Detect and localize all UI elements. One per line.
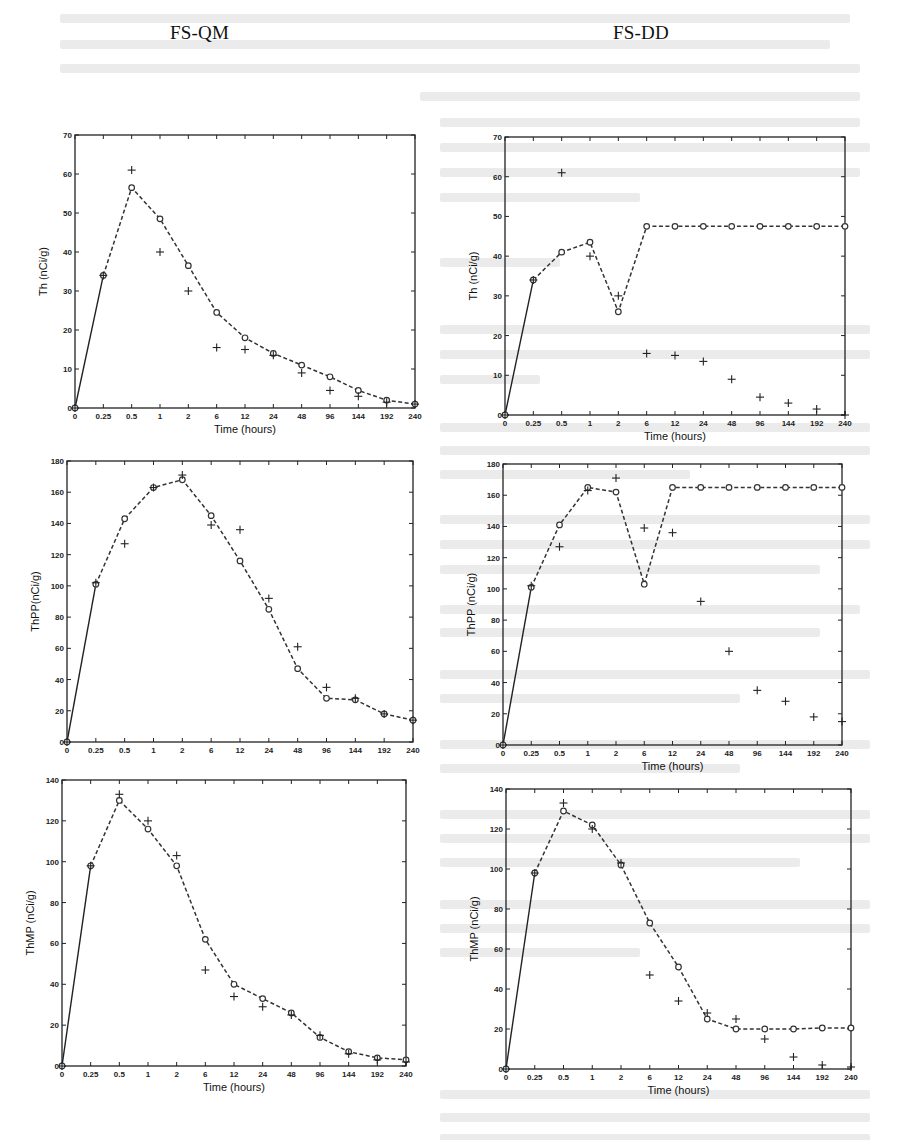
model-point-circle <box>122 516 128 522</box>
y-tick-label: 100 <box>490 865 504 874</box>
model-line <box>96 480 413 720</box>
x-tick-label: 144 <box>782 419 796 428</box>
y-tick-label: 100 <box>51 582 65 591</box>
observed-point-plus-icon <box>782 697 790 705</box>
observed-point-plus-icon <box>173 852 181 860</box>
y-tick-label: 30 <box>63 287 72 296</box>
y-tick-label: 20 <box>494 1025 503 1034</box>
x-tick-label: 2 <box>616 419 621 428</box>
model-point-circle <box>733 1026 739 1032</box>
x-tick-label: 192 <box>371 1070 385 1079</box>
x-tick-label: 0 <box>65 746 70 755</box>
model-point-circle <box>729 224 735 230</box>
observed-point-plus-icon <box>669 529 677 537</box>
observed-point-plus-icon <box>675 997 683 1005</box>
observed-point-plus-icon <box>411 400 419 408</box>
x-tick-label: 6 <box>203 1070 208 1079</box>
x-tick-label: 144 <box>779 749 793 758</box>
model-point-circle <box>814 224 820 230</box>
x-axis-label: Time (hours) <box>648 1084 710 1096</box>
observed-point-plus-icon <box>87 862 95 870</box>
y-tick-label: 80 <box>50 899 59 908</box>
x-tick-label: 0 <box>60 1070 65 1079</box>
observed-point-plus-icon <box>671 351 679 359</box>
x-tick-label: 0.25 <box>83 1070 99 1079</box>
chart-thpp-fs-dd: 02040608010012014016018000.250.512612244… <box>458 456 852 789</box>
observed-point-plus-icon <box>259 1003 267 1011</box>
x-tick-label: 144 <box>787 1073 801 1082</box>
model-point-circle <box>237 558 243 564</box>
y-tick-label: 160 <box>51 488 65 497</box>
observed-point-plus-icon <box>841 411 849 419</box>
x-tick-label: 12 <box>671 419 680 428</box>
observed-point-plus-icon <box>128 166 136 174</box>
x-tick-label: 12 <box>241 412 250 421</box>
x-tick-label: 96 <box>316 1070 325 1079</box>
y-tick-label: 120 <box>51 551 65 560</box>
x-tick-label: 192 <box>810 419 824 428</box>
observed-point-plus-icon <box>725 647 733 655</box>
observed-point-plus-icon <box>697 597 705 605</box>
model-point-circle <box>231 981 237 987</box>
observed-point-plus-icon <box>818 1061 826 1069</box>
y-tick-label: 10 <box>493 371 502 380</box>
y-tick-label: 50 <box>63 209 72 218</box>
x-tick-label: 2 <box>614 749 619 758</box>
x-tick-label: 24 <box>696 749 705 758</box>
x-tick-label: 0.5 <box>126 412 138 421</box>
y-tick-label: 20 <box>491 710 500 719</box>
y-tick-label: 140 <box>487 522 501 531</box>
chart-th-fs-dd: 01020304050607000.250.512612244896144192… <box>460 129 855 459</box>
model-point-circle <box>783 485 789 491</box>
y-tick-label: 120 <box>487 554 501 563</box>
x-tick-label: 192 <box>380 412 394 421</box>
x-tick-label: 144 <box>352 412 366 421</box>
observed-point-plus-icon <box>236 526 244 534</box>
plot-frame <box>503 464 842 745</box>
x-tick-label: 2 <box>180 746 185 755</box>
observed-point-plus-icon <box>761 1035 769 1043</box>
chart-th-fs-qm: 01020304050607000.250.512612244896144192… <box>30 127 425 452</box>
y-axis-label: Th (nCi/g) <box>37 247 49 296</box>
plot-frame <box>67 461 413 742</box>
x-tick-label: 240 <box>399 1070 413 1079</box>
model-point-circle <box>726 485 732 491</box>
model-point-circle <box>670 485 676 491</box>
x-tick-label: 0 <box>73 412 78 421</box>
x-axis-label: Time (hours) <box>642 760 704 772</box>
observed-point-plus-icon <box>756 393 764 401</box>
model-point-circle <box>819 1025 825 1031</box>
model-point-circle <box>644 224 650 230</box>
model-point-circle <box>299 362 305 368</box>
y-tick-label: 60 <box>55 644 64 653</box>
observed-point-plus-icon <box>838 718 846 726</box>
x-tick-label: 48 <box>725 749 734 758</box>
y-tick-label: 50 <box>493 212 502 221</box>
y-tick-label: 180 <box>51 457 65 466</box>
model-point-circle <box>186 263 192 269</box>
x-axis-label: Time (hours) <box>644 430 706 442</box>
observed-point-plus-icon <box>380 710 388 718</box>
observed-point-plus-icon <box>502 1065 510 1073</box>
y-tick-label: 40 <box>63 248 72 257</box>
model-point-circle <box>762 1026 768 1032</box>
model-point-circle <box>701 224 707 230</box>
observed-point-plus-icon <box>810 713 818 721</box>
x-tick-label: 192 <box>377 746 391 755</box>
x-tick-label: 0 <box>501 749 506 758</box>
plot-frame <box>62 780 406 1066</box>
observed-point-plus-icon <box>643 349 651 357</box>
chart-thmp-fs-qm: 02040608010012014000.250.512612244896144… <box>17 772 416 1110</box>
model-point-circle <box>203 937 209 943</box>
observed-point-plus-icon <box>586 252 594 260</box>
observed-point-plus-icon <box>531 869 539 877</box>
model-point-circle <box>324 695 330 701</box>
y-tick-label: 40 <box>50 980 59 989</box>
model-point-circle <box>208 513 214 519</box>
x-tick-label: 6 <box>642 749 647 758</box>
y-tick-label: 20 <box>63 326 72 335</box>
observed-point-plus-icon <box>614 292 622 300</box>
x-tick-label: 24 <box>269 412 278 421</box>
model-point-circle <box>295 666 301 672</box>
y-tick-label: 80 <box>494 905 503 914</box>
